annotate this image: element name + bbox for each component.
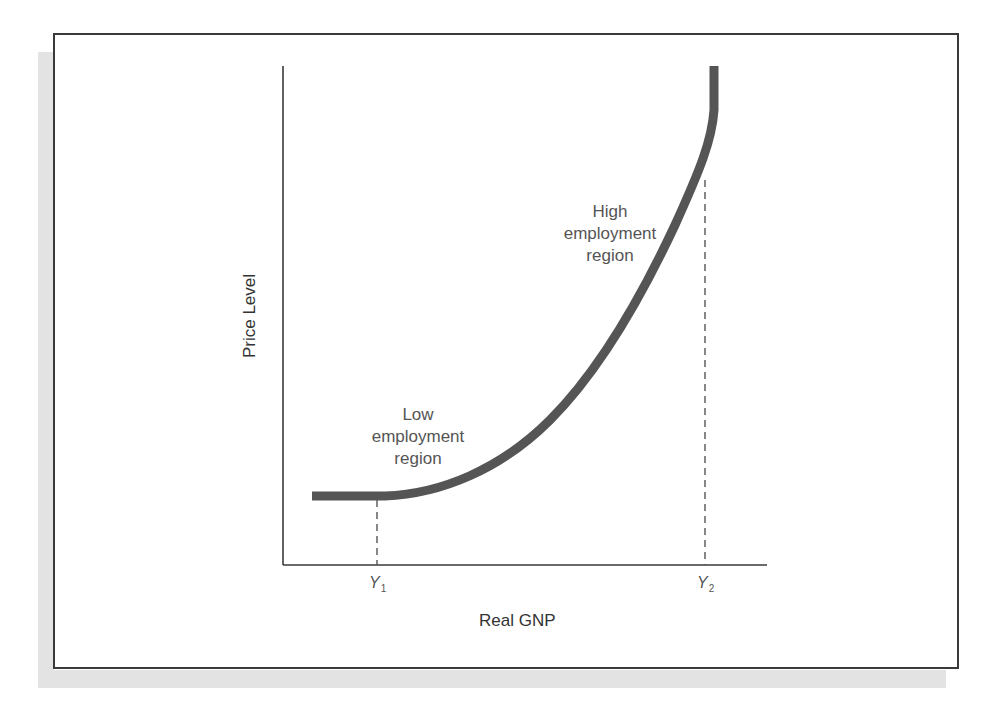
low-region-line-3: region (370, 448, 466, 470)
y1-tick-main: Y (369, 574, 380, 591)
low-region-line-1: Low (370, 404, 466, 426)
low-region-line-2: employment (370, 426, 466, 448)
y2-tick-label: Y2 (697, 574, 714, 594)
y2-tick-subscript: 2 (709, 583, 715, 594)
low-employment-region-label: Low employment region (370, 404, 466, 470)
y-axis-label: Price Level (240, 274, 260, 358)
chart-canvas (0, 0, 1007, 702)
y2-tick-main: Y (697, 574, 708, 591)
high-region-line-1: High (545, 201, 675, 223)
high-region-line-3: region (545, 245, 675, 267)
x-axis-label: Real GNP (479, 611, 556, 631)
y1-tick-label: Y1 (369, 574, 386, 594)
y1-tick-subscript: 1 (381, 583, 387, 594)
high-region-line-2: employment (545, 223, 675, 245)
high-employment-region-label: High employment region (545, 201, 675, 267)
